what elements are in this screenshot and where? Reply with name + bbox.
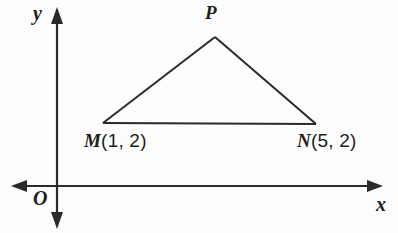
vertex-letter-n: N [297, 130, 311, 151]
vertex-letter-m: M [84, 130, 101, 151]
triangle-edge-pn [215, 37, 316, 124]
y-axis-arrow-down-icon [51, 212, 63, 229]
geometry-figure: y x O P M(1, 2) N(5, 2) [0, 0, 398, 233]
x-axis-label: x [376, 194, 386, 214]
x-axis-group [11, 180, 383, 192]
y-axis-label: y [33, 3, 42, 23]
y-axis-arrow-up-icon [51, 7, 63, 24]
figure-canvas [0, 0, 398, 233]
vertex-coords-m: (1, 2) [101, 130, 147, 151]
x-axis-arrow-right-icon [367, 180, 383, 192]
vertex-label-m: M(1, 2) [84, 131, 147, 150]
x-axis-arrow-left-icon [11, 180, 27, 192]
triangle-mnp [103, 37, 316, 124]
vertex-label-n: N(5, 2) [297, 131, 356, 150]
vertex-coords-n: (5, 2) [311, 130, 357, 151]
origin-label: O [33, 188, 47, 208]
triangle-edge-nm [103, 123, 316, 124]
y-axis-group [51, 7, 63, 229]
triangle-edge-mp [103, 37, 215, 123]
vertex-label-p: P [205, 3, 217, 22]
